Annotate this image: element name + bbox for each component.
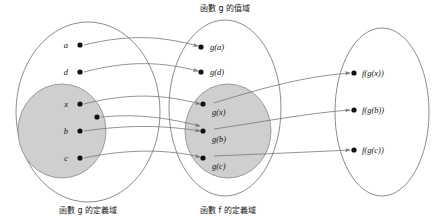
subset-fill-domain-fg bbox=[18, 84, 106, 178]
element-label-a: a bbox=[64, 40, 68, 50]
caption-domain-of-f: 函數 f 的定義域 bbox=[200, 205, 256, 215]
element-label-gb: g(b) bbox=[212, 134, 226, 144]
arrow-g-x bbox=[84, 96, 200, 104]
element-label-gc: g(c) bbox=[212, 161, 226, 171]
point-dot-fgx bbox=[351, 70, 356, 75]
element-label-fgx: f(g(x)) bbox=[362, 68, 384, 78]
point-dot-gd bbox=[198, 69, 203, 74]
point-dot-fgb bbox=[351, 107, 356, 112]
element-label-b: b bbox=[64, 126, 68, 136]
point-dot-a bbox=[77, 42, 82, 47]
point-dot-fgc bbox=[351, 147, 356, 152]
element-label-x: x bbox=[63, 99, 68, 109]
element-label-gd: g(d) bbox=[210, 67, 224, 77]
point-dot-gx bbox=[200, 101, 205, 106]
element-label-d: d bbox=[64, 67, 69, 77]
diagram-canvas: a d x b c g(a) g(d) g(x) g(b) g(c) f(g(x… bbox=[0, 0, 440, 224]
arrow-g-a bbox=[84, 38, 198, 46]
point-dot-c bbox=[77, 155, 82, 160]
element-label-gx: g(x) bbox=[212, 107, 226, 117]
arrow-g-d bbox=[84, 64, 198, 72]
function-composition-diagram: a d x b c g(a) g(d) g(x) g(b) g(c) f(g(x… bbox=[0, 0, 440, 224]
caption-domain-of-g: 函數 g 的定義域 bbox=[59, 205, 117, 215]
point-dot-unlabeled bbox=[94, 114, 99, 119]
element-label-c: c bbox=[64, 153, 68, 163]
point-dot-b bbox=[77, 128, 82, 133]
element-label-ga: g(a) bbox=[210, 42, 224, 52]
point-dot-x bbox=[77, 101, 82, 106]
point-dot-ga bbox=[198, 44, 203, 49]
point-dot-d bbox=[77, 69, 82, 74]
caption-range-of-g: 函數 g 的值域 bbox=[200, 3, 250, 13]
element-label-fgb: f(g(b)) bbox=[362, 105, 384, 115]
point-dot-gb bbox=[200, 128, 205, 133]
element-label-fgc: f(g(c)) bbox=[362, 145, 384, 155]
point-dot-gc bbox=[200, 155, 205, 160]
